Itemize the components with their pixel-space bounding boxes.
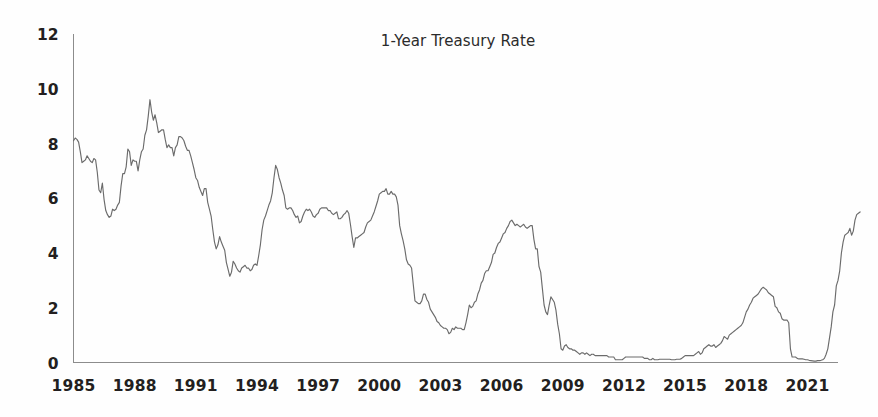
x-tick-label-2003: 2003 xyxy=(418,377,462,395)
x-tick-label-1988: 1988 xyxy=(113,377,157,395)
y-tick-label-4: 4 xyxy=(48,245,59,263)
y-tick-label-8: 8 xyxy=(48,136,59,154)
y-tick-label-12: 12 xyxy=(37,26,59,44)
x-tick-label-2018: 2018 xyxy=(724,377,768,395)
x-tick-label-1985: 1985 xyxy=(52,377,96,395)
y-axis-tick-labels: 024681012 xyxy=(37,26,59,373)
x-tick-label-2006: 2006 xyxy=(480,377,524,395)
x-tick-label-1997: 1997 xyxy=(296,377,340,395)
x-tick-label-1991: 1991 xyxy=(174,377,218,395)
y-tick-label-6: 6 xyxy=(48,190,59,208)
x-tick-label-2015: 2015 xyxy=(663,377,707,395)
chart-container: 1-Year Treasury Rate 024681012 198519881… xyxy=(0,0,878,417)
y-tick-label-10: 10 xyxy=(37,81,59,99)
y-tick-label-0: 0 xyxy=(48,355,59,373)
data-series-line xyxy=(74,100,861,361)
y-tick-label-2: 2 xyxy=(48,300,59,318)
chart-title: 1-Year Treasury Rate xyxy=(381,32,535,50)
x-axis-tick-labels: 1985198819911994199720002003200620092012… xyxy=(52,377,830,395)
x-tick-label-2012: 2012 xyxy=(602,377,646,395)
x-tick-label-2021: 2021 xyxy=(785,377,829,395)
line-chart: 1-Year Treasury Rate 024681012 198519881… xyxy=(0,0,878,417)
x-tick-label-2009: 2009 xyxy=(541,377,585,395)
x-tick-label-2000: 2000 xyxy=(357,377,401,395)
x-tick-label-1994: 1994 xyxy=(235,377,279,395)
